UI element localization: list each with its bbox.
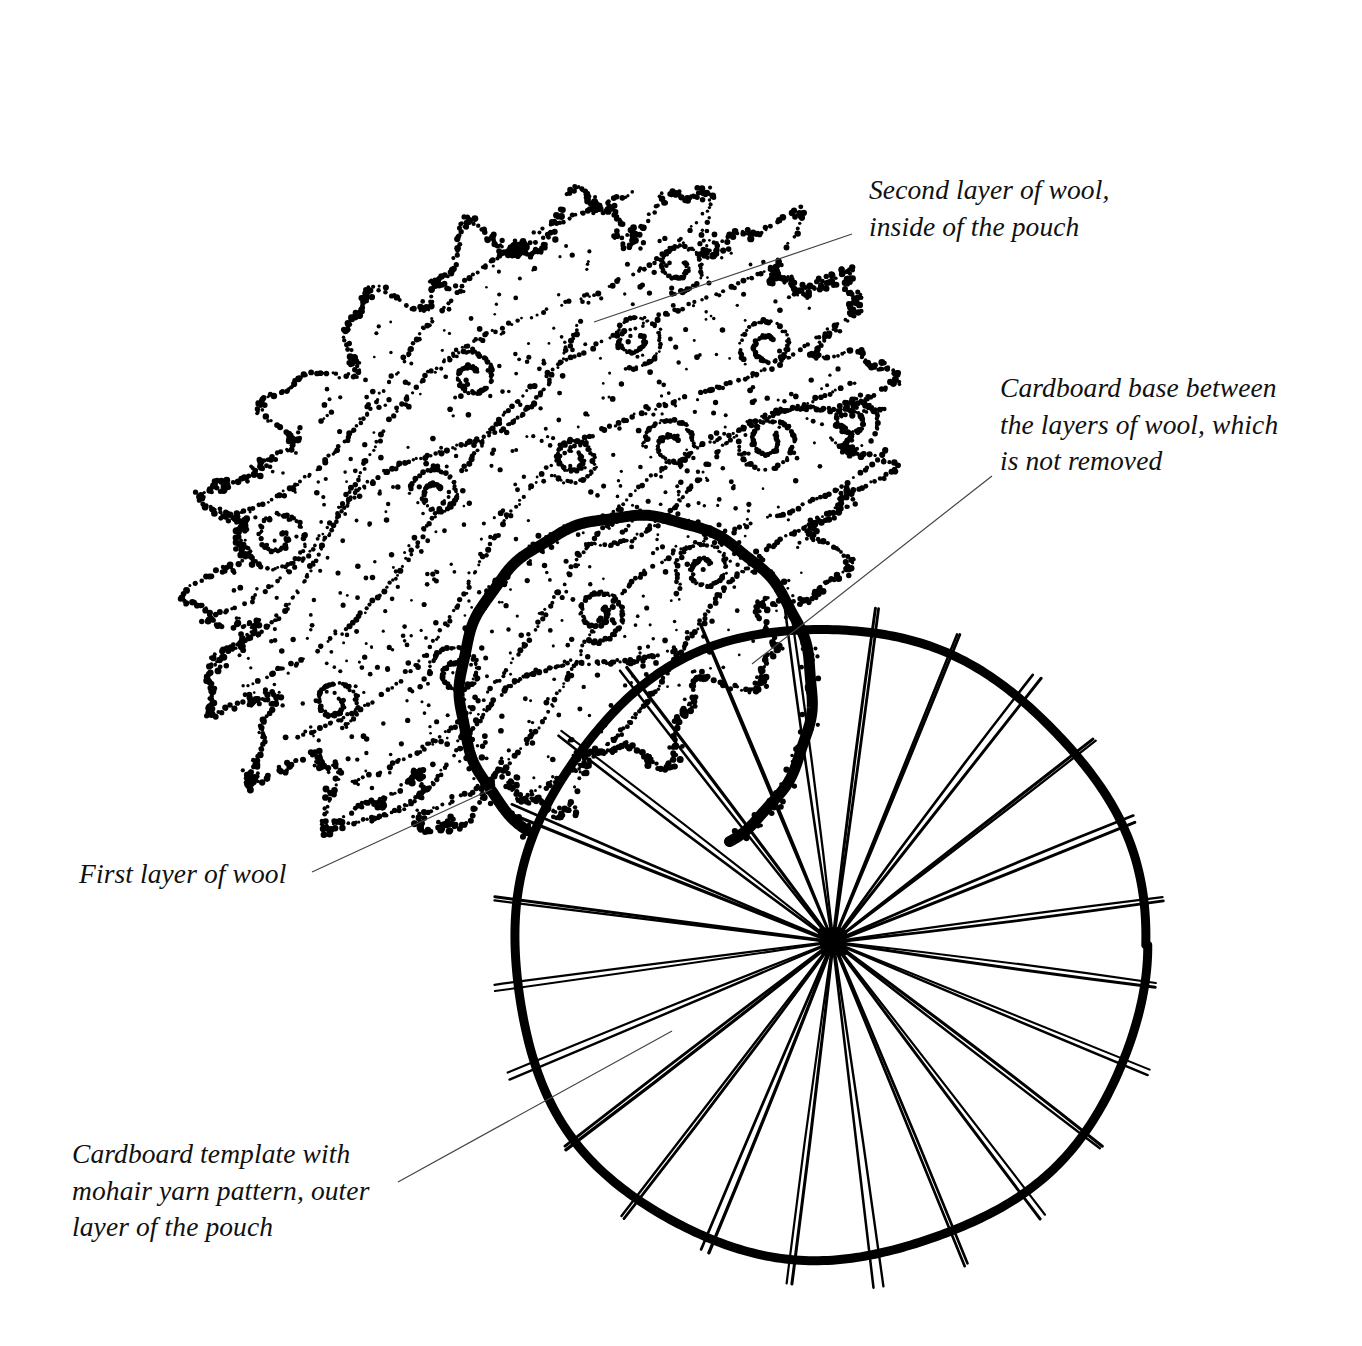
label-first-layer-of-wool: First layer of wool	[79, 856, 286, 893]
label-cardboard-base: Cardboard base between the layers of woo…	[1000, 370, 1278, 480]
label-cardboard-template: Cardboard template with mohair yarn patt…	[72, 1136, 369, 1246]
label-second-layer-of-wool: Second layer of wool, inside of the pouc…	[869, 172, 1109, 245]
